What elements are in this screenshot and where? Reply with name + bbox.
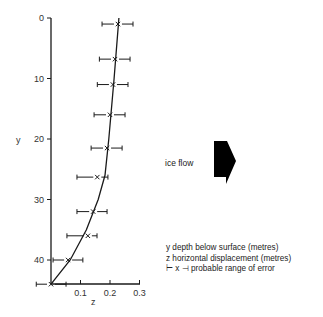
data-point	[94, 112, 125, 117]
data-point	[99, 57, 130, 62]
x-tick-label: 0.2	[104, 288, 117, 298]
data-point	[102, 22, 133, 27]
data-point	[77, 175, 108, 180]
ice-flow-arrow-icon	[214, 141, 236, 184]
error-bar-icon: ⊢ x ⊣	[166, 264, 189, 273]
y-tick-label: 30	[34, 195, 44, 205]
data-point	[97, 82, 128, 87]
y-tick-label: 40	[34, 255, 44, 265]
data-point	[77, 209, 107, 214]
x-axis-label: z	[91, 297, 96, 307]
legend: y depth below surface (metres) z horizon…	[166, 243, 291, 275]
legend-error-label: probable range of error	[191, 264, 275, 273]
data-point	[91, 146, 122, 151]
data-point	[53, 258, 83, 263]
y-ticks: 010203040	[34, 13, 51, 265]
y-tick-label: 20	[34, 134, 44, 144]
x-ticks: 0.10.20.3	[74, 280, 146, 298]
legend-z: z horizontal displacement (metres)	[166, 254, 291, 265]
x-tick-label: 0.3	[133, 288, 146, 298]
legend-error: ⊢ x ⊣ probable range of error	[166, 264, 291, 275]
y-tick-label: 0	[39, 13, 44, 23]
y-tick-label: 10	[34, 74, 44, 84]
x-tick-label: 0.1	[74, 288, 87, 298]
ice-flow-label: ice flow	[165, 158, 193, 168]
fitted-curve	[51, 18, 119, 284]
y-axis-label: y	[16, 135, 21, 145]
legend-y: y depth below surface (metres)	[166, 243, 291, 254]
